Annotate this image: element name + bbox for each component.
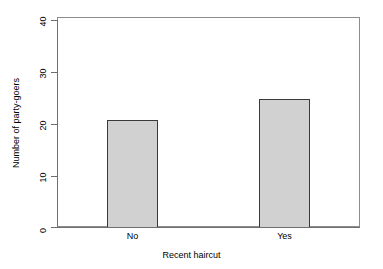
y-axis-title: Number of party-goers bbox=[11, 48, 21, 198]
y-tick-mark-10 bbox=[51, 176, 57, 177]
x-tick-label-no: No bbox=[107, 231, 158, 241]
x-axis-title: Recent haircut bbox=[0, 250, 383, 260]
bar-chart-figure: 40 30 20 10 0 No Yes Recent haircut Numb… bbox=[0, 0, 383, 269]
plot-area bbox=[57, 17, 360, 227]
x-axis-line bbox=[57, 227, 360, 228]
y-tick-mark-20 bbox=[51, 124, 57, 125]
y-tick-label-10: 10 bbox=[39, 171, 48, 183]
y-tick-label-20: 20 bbox=[39, 119, 48, 131]
y-tick-label-0: 0 bbox=[39, 222, 48, 233]
y-tick-label-40: 40 bbox=[39, 15, 48, 27]
y-tick-label-30: 30 bbox=[39, 67, 48, 79]
y-tick-mark-30 bbox=[51, 72, 57, 73]
y-tick-mark-40 bbox=[51, 20, 57, 21]
x-tick-label-yes: Yes bbox=[259, 231, 310, 241]
y-tick-mark-0 bbox=[51, 227, 57, 228]
y-axis-line bbox=[57, 20, 58, 228]
